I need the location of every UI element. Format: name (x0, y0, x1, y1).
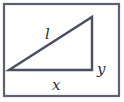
diagram-canvas: l y x (0, 0, 124, 102)
right-triangle (9, 17, 92, 70)
height-label: y (96, 60, 106, 78)
hypotenuse-label: l (45, 25, 50, 43)
base-label: x (52, 76, 61, 94)
frame-border (4, 4, 119, 96)
